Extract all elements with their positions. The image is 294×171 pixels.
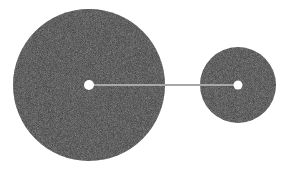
small-circle-center-dot [234, 81, 243, 90]
large-circle-center-dot [84, 80, 94, 90]
two-body-diagram [0, 0, 294, 171]
diagram-canvas [0, 0, 294, 171]
